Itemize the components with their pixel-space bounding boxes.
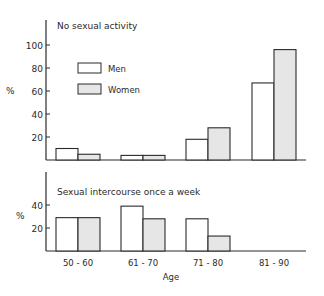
bar-women <box>274 50 296 160</box>
legend-swatch-men <box>78 63 101 73</box>
bottom-panel: Sexual intercourse once a week 2040 % 50… <box>16 172 306 282</box>
bottom-bars <box>56 206 230 251</box>
bar-women <box>208 128 230 160</box>
x-category-label: 50 - 60 <box>63 258 93 268</box>
chart-figure: No sexual activity 20406080100 % Men Wom… <box>0 0 324 296</box>
bar-men <box>121 155 143 160</box>
bar-men <box>186 139 208 160</box>
legend-label-men: Men <box>108 64 126 74</box>
y-tick-label: 20 <box>32 133 44 143</box>
bar-women <box>143 219 165 251</box>
x-category-label: 71 - 80 <box>193 258 223 268</box>
legend-swatch-women <box>78 84 101 94</box>
y-tick-label: 100 <box>26 41 43 51</box>
bar-women <box>143 155 165 160</box>
bar-men <box>121 206 143 251</box>
bar-women <box>208 236 230 251</box>
x-category-labels: 50 - 6061 - 7071 - 8081 - 90 <box>63 258 289 268</box>
bar-men <box>252 83 274 160</box>
top-panel: No sexual activity 20406080100 % Men Wom… <box>6 20 306 160</box>
bar-men <box>186 219 208 251</box>
legend-label-women: Women <box>108 85 140 95</box>
top-panel-title: No sexual activity <box>57 21 138 31</box>
x-category-label: 81 - 90 <box>259 258 289 268</box>
legend: Men Women <box>78 63 140 95</box>
bottom-panel-title: Sexual intercourse once a week <box>57 187 201 197</box>
y-tick-label: 20 <box>32 224 44 234</box>
bar-women <box>78 218 100 251</box>
y-tick-label: 40 <box>32 201 44 211</box>
bar-women <box>78 154 100 160</box>
bottom-y-unit: % <box>16 211 25 221</box>
bottom-y-ticks: 2040 <box>32 201 50 234</box>
top-y-unit: % <box>6 86 15 96</box>
x-axis-title: Age <box>163 272 179 282</box>
y-tick-label: 40 <box>32 110 44 120</box>
bar-men <box>56 149 78 161</box>
y-tick-label: 80 <box>32 64 44 74</box>
bar-men <box>56 218 78 251</box>
x-category-label: 61 - 70 <box>128 258 158 268</box>
y-tick-label: 60 <box>32 87 44 97</box>
